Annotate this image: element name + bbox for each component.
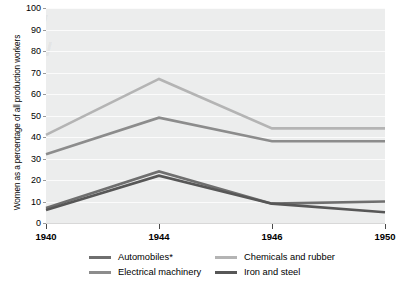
legend-item-iron-and-steel: Iron and steel (215, 267, 300, 277)
x-axis-line (46, 223, 385, 224)
x-tick-mark (159, 224, 160, 229)
series-line (46, 118, 385, 155)
y-tick-label: 90 (31, 25, 41, 35)
x-tick-label: 1946 (261, 231, 282, 242)
legend-label-iron-and-steel: Iron and steel (244, 267, 300, 277)
legend-swatch-electrical-machinery (89, 271, 111, 274)
x-tick-label: 1944 (148, 231, 169, 242)
legend-label-chemicals-and-rubber: Chemicals and rubber (244, 252, 335, 262)
x-tick-label: 1940 (35, 231, 56, 242)
y-tick-label: 50 (31, 111, 41, 121)
legend-item-automobiles: Automobiles* (89, 252, 173, 262)
chart-legend: Automobiles* Electrical machinery Chemic… (0, 250, 403, 282)
x-tick-label: 1950 (374, 231, 395, 242)
y-tick-label: 80 (31, 46, 41, 56)
y-tick-label: 60 (31, 89, 41, 99)
y-tick-label: 0 (36, 218, 41, 228)
y-tick-label: 100 (26, 3, 41, 13)
series-line (46, 176, 385, 213)
y-tick-label: 70 (31, 68, 41, 78)
legend-swatch-chemicals-and-rubber (215, 256, 237, 259)
y-tick-label: 20 (31, 175, 41, 185)
legend-label-automobiles: Automobiles* (118, 252, 173, 262)
legend-item-electrical-machinery: Electrical machinery (89, 267, 201, 277)
x-tick-mark (46, 224, 47, 229)
x-tick-mark (385, 224, 386, 229)
x-tick-mark (272, 224, 273, 229)
y-tick-label: 10 (31, 197, 41, 207)
y-axis-title: Women as a percentage of all production … (13, 13, 22, 233)
legend-swatch-automobiles (89, 256, 111, 259)
chart-figure: Women as a percentage of all production … (0, 0, 403, 282)
legend-swatch-iron-and-steel (215, 271, 237, 274)
series-lines (46, 8, 385, 223)
legend-label-electrical-machinery: Electrical machinery (118, 267, 201, 277)
plot-area: WOMEN WORKERS 0102030405060708090100 (46, 8, 385, 223)
y-tick-label: 40 (31, 132, 41, 142)
y-tick-label: 30 (31, 154, 41, 164)
legend-item-chemicals-and-rubber: Chemicals and rubber (215, 252, 335, 262)
series-line (46, 79, 385, 135)
